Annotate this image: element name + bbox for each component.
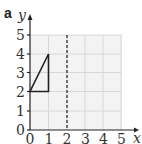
y-tick-1: 1 <box>16 103 25 119</box>
coordinate-grid-diagram: a y x 5 4 3 2 1 0 0 1 2 3 4 5 <box>0 0 142 144</box>
x-axis-label: x <box>133 130 141 144</box>
part-label: a <box>4 5 12 21</box>
y-axis-label: y <box>17 7 27 23</box>
y-tick-3: 3 <box>16 65 25 81</box>
x-tick-3: 3 <box>81 131 90 144</box>
x-tick-2: 2 <box>63 131 72 144</box>
x-tick-4: 4 <box>99 131 108 144</box>
y-tick-2: 2 <box>16 84 25 100</box>
x-tick-0: 0 <box>26 131 35 144</box>
x-tick-1: 1 <box>45 131 54 144</box>
y-tick-5: 5 <box>16 27 25 43</box>
y-tick-4: 4 <box>16 46 25 62</box>
y-axis-arrow-icon <box>28 14 33 20</box>
x-tick-5: 5 <box>117 131 126 144</box>
grid-background <box>30 35 122 130</box>
x-tick-labels: 0 1 2 3 4 5 <box>26 131 126 144</box>
y-tick-0: 0 <box>16 122 25 138</box>
y-tick-labels: 5 4 3 2 1 0 <box>16 27 25 138</box>
